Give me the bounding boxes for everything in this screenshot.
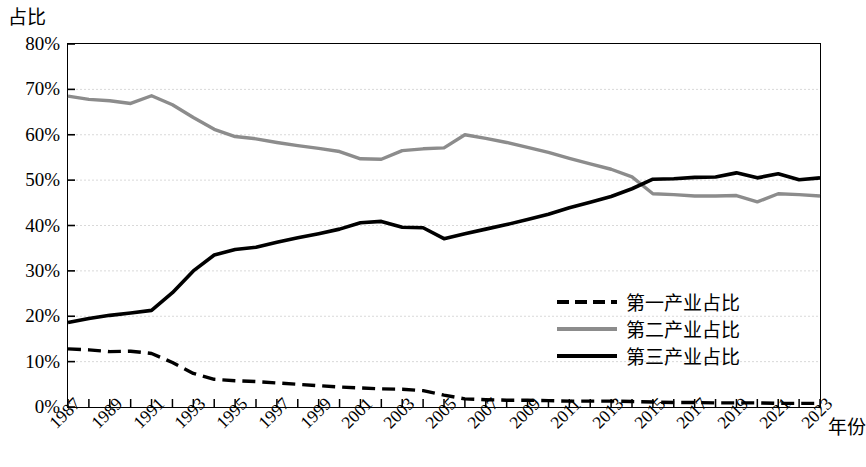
x-tick-label: 1991: [130, 394, 167, 431]
legend-item[interactable]: 第三产业占比: [556, 342, 802, 369]
x-tick-label: 1987: [46, 394, 83, 431]
x-tick-label: 2009: [506, 394, 543, 431]
x-tick-label: 1993: [171, 394, 208, 431]
legend-label: 第二产业占比: [626, 315, 740, 342]
x-tick-label: 2003: [380, 394, 417, 431]
x-tick-label: 2017: [673, 394, 710, 431]
x-tick-label: 1995: [213, 394, 250, 431]
x-tick-label: 2011: [547, 395, 584, 432]
legend-label: 第三产业占比: [626, 342, 740, 369]
x-tick-label: 2019: [714, 394, 751, 431]
legend-label: 第一产业占比: [626, 288, 740, 315]
x-tick-label: 2005: [422, 394, 459, 431]
x-tick-label: 2001: [338, 394, 375, 431]
x-tick-label: 1999: [297, 394, 334, 431]
x-tick-label: 1997: [255, 394, 292, 431]
legend-item[interactable]: 第二产业占比: [556, 315, 802, 342]
x-tick-label: 2021: [756, 394, 793, 431]
legend-line-swatch-icon: [556, 348, 618, 364]
x-tick-label: 2015: [631, 394, 668, 431]
legend-line-swatch-icon: [556, 321, 618, 337]
x-tick-label: 2007: [464, 394, 501, 431]
chart-legend: 第一产业占比第二产业占比第三产业占比: [556, 288, 802, 368]
x-tick-label: 2013: [589, 394, 626, 431]
legend-item[interactable]: 第一产业占比: [556, 288, 802, 315]
x-axis-title: 年份: [828, 412, 866, 439]
legend-line-swatch-icon: [556, 294, 618, 310]
x-tick-label: 1989: [88, 394, 125, 431]
